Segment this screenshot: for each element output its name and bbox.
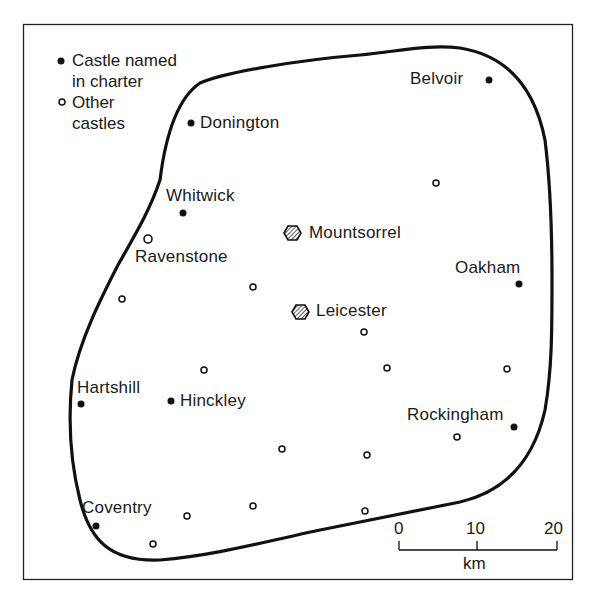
castle-dot-icon	[511, 424, 518, 431]
open-circle-icon	[384, 365, 390, 371]
label-belvoir: Belvoir	[410, 70, 463, 88]
castle-dot-icon	[516, 281, 523, 288]
open-circle-icon	[184, 513, 190, 519]
label-hartshill: Hartshill	[77, 379, 140, 397]
label-ravenstone: Ravenstone	[135, 248, 228, 266]
castle-dot-icon	[78, 401, 85, 408]
legend-named-line2: in charter	[72, 71, 143, 92]
label-rockingham: Rockingham	[407, 406, 504, 424]
open-circle-icon	[433, 180, 439, 186]
legend-other-line1: Other	[72, 92, 115, 113]
open-circle-icon	[454, 434, 460, 440]
legend-other-line2: castles	[72, 113, 125, 134]
open-circle-icon	[364, 452, 370, 458]
open-circle-icon	[144, 235, 152, 243]
castle-dot-icon	[486, 77, 493, 84]
mountsorrel-hexagon-icon	[284, 226, 301, 240]
open-circle-icon	[504, 366, 510, 372]
open-circle-icon	[362, 508, 368, 514]
label-whitwick: Whitwick	[166, 187, 235, 205]
scale-bar	[399, 541, 557, 550]
legend-named-line1: Castle named	[72, 50, 177, 71]
label-hinckley: Hinckley	[180, 392, 246, 410]
open-circle-icon	[279, 446, 285, 452]
leicester-hexagon-icon	[292, 305, 309, 319]
open-circle-icon	[119, 296, 125, 302]
open-circle-icon	[250, 503, 256, 509]
label-donington: Donington	[200, 114, 279, 132]
legend-filled-dot-icon	[58, 58, 65, 65]
open-circle-icon	[250, 284, 256, 290]
label-leicester: Leicester	[316, 302, 387, 320]
open-circle-icon	[361, 329, 367, 335]
label-oakham: Oakham	[455, 259, 520, 277]
scale-tick-0: 0	[394, 520, 403, 538]
scale-unit: km	[463, 555, 486, 573]
open-circle-icon	[150, 541, 156, 547]
castle-dot-icon	[168, 398, 175, 405]
named-castle-markers	[78, 77, 523, 530]
castle-dot-icon	[93, 523, 100, 530]
castle-dot-icon	[180, 210, 187, 217]
legend-open-circle-icon	[59, 99, 65, 105]
open-circle-icon	[201, 367, 207, 373]
scale-tick-20: 20	[544, 520, 563, 538]
label-mountsorrel: Mountsorrel	[309, 224, 401, 242]
label-coventry: Coventry	[82, 499, 152, 517]
scale-tick-10: 10	[466, 520, 485, 538]
region-boundary	[70, 47, 552, 560]
castle-dot-icon	[188, 120, 195, 127]
